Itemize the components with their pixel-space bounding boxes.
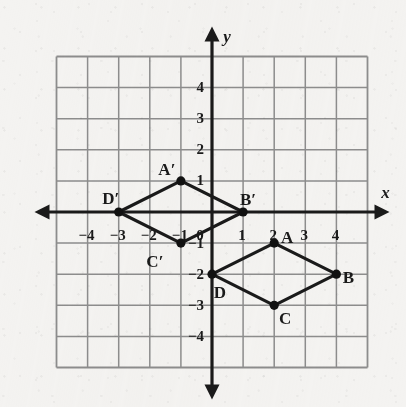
x-axis-label: x	[380, 183, 390, 202]
vertex-label: C	[279, 309, 291, 328]
vertex-label: A′	[158, 160, 175, 179]
vertex-point	[332, 270, 341, 279]
x-tick-label: −3	[110, 227, 126, 243]
y-tick-label: 2	[197, 141, 205, 157]
coordinate-plane-figure: x y −4−3−2−1012344321−1−2−3−4 ABCDA′B′C′…	[0, 0, 406, 407]
vertex-point	[270, 239, 279, 248]
y-tick-label: −4	[188, 328, 205, 344]
y-tick-label: 4	[197, 79, 205, 95]
vertex-label: C′	[146, 252, 163, 271]
paper-background	[0, 0, 406, 407]
y-tick-label: 1	[197, 172, 205, 188]
vertex-label: D′	[102, 189, 119, 208]
vertex-label: B′	[240, 190, 256, 209]
x-tick-label: 3	[301, 227, 309, 243]
vertex-point	[114, 207, 123, 216]
vertex-label: A	[281, 228, 294, 247]
y-tick-label: −2	[188, 266, 204, 282]
x-tick-label: 4	[332, 227, 340, 243]
y-axis-label: y	[221, 27, 231, 46]
vertex-label: B	[343, 268, 354, 287]
vertex-point	[176, 176, 185, 185]
vertex-label: D	[214, 283, 226, 302]
x-tick-label: 1	[238, 227, 246, 243]
vertex-point	[176, 239, 185, 248]
vertex-point	[207, 270, 216, 279]
y-tick-label: −3	[188, 297, 204, 313]
x-tick-label: −4	[79, 227, 96, 243]
vertex-point	[270, 301, 279, 310]
y-tick-label: 3	[197, 110, 205, 126]
coordinate-plane-svg: x y −4−3−2−1012344321−1−2−3−4 ABCDA′B′C′…	[0, 0, 406, 407]
